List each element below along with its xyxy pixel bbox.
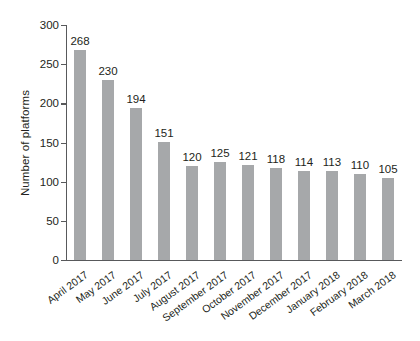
x-axis-line (66, 260, 402, 261)
bar-value-label: 268 (70, 35, 89, 47)
bar-value-label: 151 (154, 127, 173, 139)
bar-chart: Number of platforms 050100150200250300 2… (0, 0, 420, 341)
bar-rect[interactable] (326, 171, 338, 260)
y-axis-tick-mark (61, 260, 66, 261)
bar-value-label: 114 (295, 156, 313, 168)
bar-value-label: 125 (210, 147, 229, 159)
plot-area: 050100150200250300 268230194151120125121… (66, 25, 402, 260)
bar-value-label: 230 (98, 65, 117, 77)
y-axis-tick-mark (61, 25, 66, 26)
bar-rect[interactable] (214, 162, 226, 260)
y-axis-tick-label: 200 (40, 97, 59, 109)
y-axis-tick-label: 150 (40, 137, 59, 149)
y-axis-tick-mark (61, 64, 66, 65)
y-axis-tick-label: 250 (40, 58, 59, 70)
y-axis-tick-label: 300 (40, 19, 59, 31)
y-axis-tick-label: 50 (46, 215, 59, 227)
bar-value-label: 194 (126, 93, 145, 105)
bar-value-label: 110 (351, 159, 369, 171)
bar-rect[interactable] (270, 168, 282, 260)
bar-rect[interactable] (298, 171, 310, 260)
bar-rect[interactable] (186, 166, 198, 260)
y-axis-tick-mark (61, 221, 66, 222)
bar-rect[interactable] (242, 165, 254, 260)
y-axis-title: Number of platforms (19, 23, 35, 263)
y-axis-tick-mark (61, 103, 66, 104)
bar-rect[interactable] (74, 50, 86, 260)
bar-rect[interactable] (158, 142, 170, 260)
bar-value-label: 120 (182, 151, 201, 163)
bar-value-label: 113 (323, 156, 341, 168)
bar-rect[interactable] (130, 108, 142, 260)
y-axis-tick-mark (61, 143, 66, 144)
bar-value-label: 118 (267, 153, 285, 165)
bar-rect[interactable] (354, 174, 366, 260)
bar-value-label: 105 (378, 163, 397, 175)
y-axis-tick-label: 100 (40, 176, 59, 188)
bar-rect[interactable] (102, 80, 114, 260)
bar-value-label: 121 (238, 150, 257, 162)
y-axis-tick-label: 0 (53, 254, 59, 266)
bar-rect[interactable] (382, 178, 394, 260)
y-axis-tick-mark (61, 182, 66, 183)
